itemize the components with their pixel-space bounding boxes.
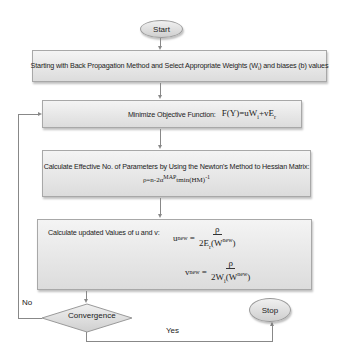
step2-text: Minimize Objective Function:	[128, 110, 216, 119]
start-label: Start	[153, 25, 170, 34]
v-update-formula: vnew = ρ 2Wi(Wnew)	[185, 258, 252, 287]
step-minimize-objective: Minimize Objective Function: F(Y)=uWi+vE…	[42, 100, 302, 128]
connector-step3-step4	[160, 198, 161, 215]
yes-horizontal	[86, 341, 273, 342]
arrow-right-icon	[38, 112, 42, 116]
step1-text: Starting with Back Propagation Method an…	[31, 61, 329, 71]
yes-up	[272, 326, 273, 342]
arrow-down-icon	[158, 214, 162, 218]
stop-node: Stop	[249, 298, 291, 322]
effective-params-formula: ρ=n-2αMAPtmin(HM)-1	[143, 174, 210, 184]
stop-label: Stop	[262, 306, 278, 315]
start-node: Start	[140, 20, 183, 38]
step-init-weights: Starting with Back Propagation Method an…	[32, 50, 327, 82]
arrow-up-icon	[270, 322, 274, 326]
connector-step2-step3	[160, 129, 161, 146]
step-update-u-v: Calculate updated Values of u and v: une…	[37, 219, 312, 290]
step3-text: Calculate Effective No. of Parameters by…	[44, 162, 310, 171]
edge-yes-label: Yes	[166, 326, 179, 335]
u-update-formula: unew = ρ 2Er(Wnew)	[173, 224, 238, 253]
edge-no-label: No	[22, 298, 32, 307]
loop-no-vertical	[18, 114, 19, 319]
arrow-down-icon	[158, 95, 162, 99]
loop-no-bottom	[18, 318, 42, 319]
objective-formula: F(Y)=uWi+vEr	[222, 108, 276, 120]
step-effective-parameters: Calculate Effective No. of Parameters by…	[42, 150, 311, 197]
decision-label: Convergence	[68, 311, 116, 320]
step4-text: Calculate updated Values of u and v:	[48, 228, 160, 237]
arrow-down-icon	[158, 145, 162, 149]
loop-no-top	[18, 114, 38, 115]
